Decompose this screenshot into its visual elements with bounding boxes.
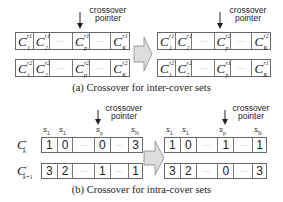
cover-set-cell: Cr2p [215,33,232,49]
sensor-label-sub: p [100,130,103,136]
cover-set-sup: r1 [84,33,89,39]
cover-set-sub: p [226,45,229,51]
sensor-label-sub: N [258,130,262,136]
gene-cell: 3 [129,138,142,152]
ellipsis-cell: ··· [231,33,252,49]
cover-set-sup: r1 [226,60,231,66]
cover-set-cell: Cr2K [111,60,129,76]
cover-set-sup: r2 [84,60,89,66]
sensor-label: s1 [182,125,189,136]
transform-arrow-icon [143,140,165,180]
gene-cell: 1 [42,138,58,152]
sensor-label: s1 [59,125,66,136]
chromosome-a-after-row1: Cr11Cr12···Cr2p···Cr2K [157,32,271,50]
cover-set-sub: p [84,72,87,78]
cover-set-cell: Cr12 [34,33,51,49]
sensor-label-sub: N [135,130,139,136]
cover-set-cell: Cr22 [176,60,193,76]
ellipsis-cell: ··· [50,60,73,76]
cover-set-sup: r2 [226,33,231,39]
sensor-label-sub: 1 [186,130,189,136]
ellipsis-cell: ··· [90,33,112,49]
cover-set-cell: Cr11 [158,33,176,49]
pointer-label-line2: pointer [225,112,277,120]
chromosome-b-after-row1: 10···1···1 [164,137,267,153]
gene-cell: 1 [165,138,181,152]
cover-set-sup: r2 [122,60,127,66]
ellipsis-cell: ··· [73,164,95,178]
sensor-label-sub: 1 [170,130,173,136]
chromosome-a-before-row2: Cr21Cr22···Cr2p···Cr2K [15,59,130,77]
pointer-label-line2: pointer [80,14,136,22]
sensor-label: sN [254,125,262,136]
gene-cell: 0 [218,164,234,178]
gene-cell: 3 [42,164,58,178]
cover-set-cell: Cr1K [252,60,270,76]
gene-cell: 0 [181,138,197,152]
gene-cell: 1 [95,164,111,178]
ellipsis-cell: ··· [197,138,219,152]
chromosome-a-before-row1: Cr11Cr12···Cr1p···Cr1K [15,32,130,50]
cover-set-variable: Cr1K [254,62,263,75]
chromosome-b-before-row2: 32···1···1 [41,163,143,179]
transform-arrow-icon [133,36,153,76]
sensor-label: sN [131,125,139,136]
crossover-pointer-label-b-right: crossover pointer [225,104,277,120]
cover-set-sup: r1 [187,33,192,39]
cover-set-variable: Cr2K [113,62,122,75]
cover-set-sub: K [263,72,267,78]
cover-set-sub: 1 [27,72,30,78]
cover-set-cell: Cr1p [215,60,232,76]
cover-set-variable: Cr21 [18,62,27,75]
cover-set-sup: r2 [263,33,268,39]
sensor-label-sub: 1 [47,130,50,136]
ellipsis-cell: ··· [73,138,95,152]
cover-set-sub: 2 [187,72,190,78]
cover-set-variable: Cr2p [217,35,226,48]
cover-set-sub: 1 [169,45,172,51]
row-label-ck: C′k [17,137,26,154]
cover-set-sup: r1 [27,33,32,39]
gene-cell: 2 [181,164,197,178]
ellipsis-cell: ··· [192,60,214,76]
gene-cell: 3 [165,164,181,178]
chromosome-b-after-row2: 32···0···3 [164,163,267,179]
sensor-label: s1 [43,125,50,136]
gene-cell: 0 [58,138,74,152]
sensor-label: s1 [166,125,173,136]
cover-set-sup: r1 [263,60,268,66]
ellipsis-cell: ··· [90,60,112,76]
gene-cell: 2 [58,164,74,178]
cover-set-sup: r1 [169,33,174,39]
cover-set-variable: Cr2K [254,35,263,48]
cover-set-variable: Cr12 [36,35,45,48]
cover-set-cell: Cr11 [16,33,34,49]
ellipsis-cell: ··· [50,33,73,49]
cover-set-cell: Cr1p [73,33,90,49]
cover-set-sub: K [122,72,126,78]
cover-set-cell: Cr22 [34,60,51,76]
cover-set-variable: Cr11 [18,35,27,48]
cover-set-cell: Cr21 [16,60,34,76]
cover-set-sub: p [84,45,87,51]
cover-set-sub: 1 [169,72,172,78]
ellipsis-cell: ··· [197,164,219,178]
chromosome-a-after-row2: Cr21Cr22···Cr1p···Cr1K [157,59,271,77]
sensor-label-sub: p [223,130,226,136]
pointer-label-line2: pointer [98,112,150,120]
row-label-sub: k [23,148,26,154]
crossover-pointer-label-a-right: crossover pointer [220,6,276,22]
cover-set-cell: Cr2p [73,60,90,76]
row-label-sup: ′ [26,165,27,171]
row-label-sub: k+1 [23,174,33,180]
cover-set-sup: r2 [45,60,50,66]
cover-set-variable: Cr11 [160,35,169,48]
cover-set-cell: Cr21 [158,60,176,76]
cover-set-variable: Cr12 [178,35,187,48]
cover-set-sub: 1 [27,45,30,51]
cover-set-variable: Cr1K [113,35,122,48]
ellipsis-cell: ··· [234,164,253,178]
cover-set-variable: Cr22 [36,62,45,75]
ellipsis-cell: ··· [192,33,214,49]
cover-set-sub: K [122,45,126,51]
